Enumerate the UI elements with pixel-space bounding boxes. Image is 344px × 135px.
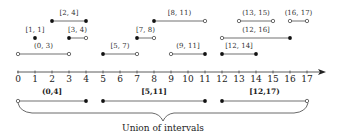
interval-label: (9, 11] xyxy=(176,42,200,50)
interval: [2, 4] xyxy=(50,9,88,23)
interval: [1, 1] xyxy=(26,26,45,40)
axis-tick-label: 11 xyxy=(199,74,210,84)
interval-right-open-endpoint xyxy=(135,52,138,55)
union-interval: (0,4] xyxy=(16,87,88,103)
interval-right-closed-endpoint xyxy=(288,36,292,40)
interval: (12, 16] xyxy=(220,26,292,40)
union-left-open-endpoint xyxy=(16,99,19,102)
interval-label: (13, 15) xyxy=(242,9,270,17)
interval-left-closed-endpoint xyxy=(33,36,37,40)
interval-left-open-endpoint xyxy=(288,19,291,22)
axis-tick-label: 9 xyxy=(168,74,174,84)
union-left-closed-endpoint xyxy=(220,99,224,103)
interval-right-closed-endpoint xyxy=(203,52,207,56)
axis-tick-label: 0 xyxy=(15,74,21,84)
union-brace xyxy=(18,103,308,121)
axis-tick-label: 10 xyxy=(182,74,194,84)
interval-label: [1, 1] xyxy=(26,26,45,34)
union-label: (0,4] xyxy=(42,87,62,96)
interval-label: (0, 3) xyxy=(34,42,53,50)
axis-tick-label: 7 xyxy=(134,74,140,84)
axis-tick-label: 12 xyxy=(216,74,227,84)
interval-label: [2, 4] xyxy=(60,9,79,17)
interval-left-closed-endpoint xyxy=(152,19,156,23)
axis-tick-label: 3 xyxy=(66,74,72,84)
interval-label: (16, 17) xyxy=(285,9,313,17)
union-right-open-endpoint xyxy=(305,99,308,102)
interval-right-open-endpoint xyxy=(305,19,308,22)
interval: (16, 17) xyxy=(285,9,313,23)
interval-right-open-endpoint xyxy=(152,36,155,39)
interval: (0, 3) xyxy=(16,42,70,56)
axis-tick-label: 13 xyxy=(233,74,245,84)
interval-right-closed-endpoint xyxy=(254,52,258,56)
interval: [12, 14] xyxy=(220,42,258,56)
interval-label: [8, 11) xyxy=(168,9,192,17)
interval-label: [7, 8) xyxy=(136,26,155,34)
union-label: [5,11] xyxy=(141,87,166,96)
interval-right-open-endpoint xyxy=(271,19,274,22)
interval-union-diagram: [2, 4][8, 11)(13, 15)(16, 17)[1, 1][3, 4… xyxy=(0,0,344,135)
axis-tick-label: 15 xyxy=(267,74,279,84)
interval: [3, 4) xyxy=(67,26,88,40)
union-right-closed-endpoint xyxy=(84,99,88,103)
axis-tick-label: 14 xyxy=(250,74,262,84)
axis-tick-label: 2 xyxy=(49,74,55,84)
axis-tick-label: 5 xyxy=(100,74,106,84)
interval-left-closed-endpoint xyxy=(220,52,224,56)
union-label: [12,17) xyxy=(249,87,280,96)
axis-tick-label: 17 xyxy=(301,74,313,84)
axis-tick-label: 6 xyxy=(117,74,123,84)
interval-left-open-endpoint xyxy=(169,52,172,55)
interval-right-open-endpoint xyxy=(203,19,206,22)
interval-label: (12, 16] xyxy=(242,26,270,34)
interval-label: [5, 7) xyxy=(111,42,130,50)
interval-left-closed-endpoint xyxy=(135,36,139,40)
union-right-closed-endpoint xyxy=(203,99,207,103)
interval: (13, 15) xyxy=(237,9,274,23)
intervals-layer: [2, 4][8, 11)(13, 15)(16, 17)[1, 1][3, 4… xyxy=(16,9,312,56)
interval: [5, 7) xyxy=(101,42,139,56)
interval-right-closed-endpoint xyxy=(84,19,88,23)
axis-tick-label: 16 xyxy=(284,74,296,84)
interval: [7, 8) xyxy=(135,26,156,40)
interval-right-open-endpoint xyxy=(84,36,87,39)
interval-left-open-endpoint xyxy=(16,52,19,55)
interval-label: [3, 4) xyxy=(68,26,87,34)
interval-left-closed-endpoint xyxy=(67,36,71,40)
union-interval: [12,17) xyxy=(220,87,309,103)
union-intervals: (0,4][5,11][12,17) xyxy=(16,87,308,103)
curly-brace xyxy=(18,103,308,121)
interval-left-closed-endpoint xyxy=(50,19,54,23)
axis-tick-label: 8 xyxy=(151,74,157,84)
interval-left-open-endpoint xyxy=(220,36,223,39)
interval-left-closed-endpoint xyxy=(101,52,105,56)
union-interval: [5,11] xyxy=(101,87,207,103)
union-left-closed-endpoint xyxy=(101,99,105,103)
interval: [8, 11) xyxy=(152,9,207,23)
number-line-axis: 01234567891011121314151617 xyxy=(15,69,326,84)
axis-tick-label: 4 xyxy=(83,74,89,84)
interval: (9, 11] xyxy=(169,42,207,56)
union-caption: Union of intervals xyxy=(122,123,204,133)
interval-left-open-endpoint xyxy=(237,19,240,22)
interval-label: [12, 14] xyxy=(225,42,253,50)
interval-right-open-endpoint xyxy=(67,52,70,55)
axis-tick-label: 1 xyxy=(32,74,38,84)
